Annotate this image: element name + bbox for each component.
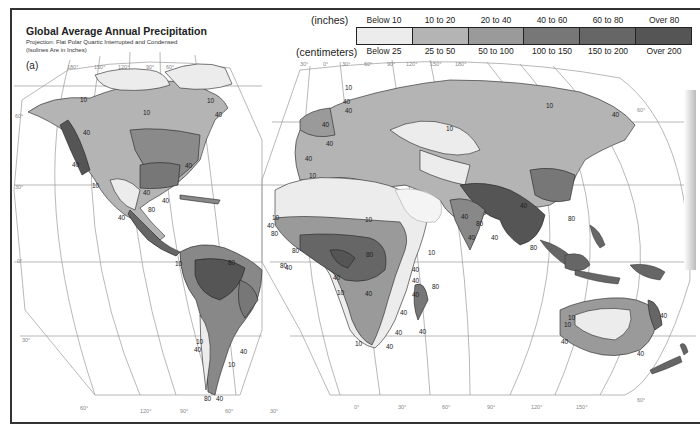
svg-text:0°: 0° (354, 404, 359, 410)
svg-text:80: 80 (476, 220, 484, 227)
svg-text:80: 80 (228, 259, 236, 266)
svg-text:10: 10 (196, 338, 204, 345)
svg-text:90°: 90° (487, 404, 495, 410)
svg-text:40: 40 (83, 129, 91, 136)
svg-text:10: 10 (80, 96, 88, 103)
svg-text:180°: 180° (455, 61, 466, 67)
svg-text:10: 10 (207, 97, 215, 104)
svg-text:10: 10 (92, 182, 100, 189)
svg-text:80: 80 (204, 395, 212, 402)
svg-text:10: 10 (446, 125, 454, 132)
svg-text:10: 10 (428, 249, 436, 256)
svg-text:120°: 120° (140, 408, 151, 414)
svg-text:120°: 120° (406, 61, 417, 67)
australia (560, 298, 662, 356)
svg-text:10: 10 (228, 361, 236, 368)
svg-text:40: 40 (365, 290, 373, 297)
svg-text:150°: 150° (576, 404, 587, 410)
svg-text:80: 80 (432, 283, 440, 290)
svg-text:90°: 90° (146, 64, 154, 70)
svg-text:30°: 30° (22, 337, 30, 343)
new-zealand (650, 344, 688, 374)
svg-text:10: 10 (365, 216, 373, 223)
svg-text:10: 10 (345, 84, 353, 91)
svg-text:10: 10 (309, 172, 317, 179)
svg-text:40: 40 (343, 98, 351, 105)
svg-text:40: 40 (72, 161, 80, 168)
svg-text:40: 40 (412, 266, 420, 273)
svg-text:40: 40 (285, 264, 293, 271)
svg-text:40: 40 (322, 121, 330, 128)
svg-text:180°: 180° (67, 64, 78, 70)
svg-text:60°: 60° (80, 405, 88, 411)
svg-text:10: 10 (546, 102, 554, 109)
svg-text:40: 40 (419, 328, 427, 335)
svg-text:60°: 60° (364, 61, 372, 67)
svg-text:40: 40 (395, 329, 403, 336)
svg-text:10: 10 (568, 314, 576, 321)
svg-text:40: 40 (660, 312, 668, 319)
svg-text:40: 40 (185, 162, 193, 169)
svg-text:30°: 30° (270, 408, 278, 414)
svg-text:10: 10 (143, 109, 151, 116)
svg-text:40: 40 (267, 222, 275, 229)
svg-text:40: 40 (240, 348, 248, 355)
svg-text:10: 10 (564, 321, 572, 328)
svg-text:90°: 90° (180, 408, 188, 414)
svg-text:80: 80 (366, 251, 374, 258)
svg-text:40: 40 (345, 107, 353, 114)
svg-text:40: 40 (561, 338, 569, 345)
svg-text:40: 40 (194, 346, 202, 353)
svg-text:60°: 60° (637, 107, 645, 113)
svg-text:40: 40 (326, 140, 334, 147)
svg-text:80: 80 (271, 230, 279, 237)
svg-text:60°: 60° (225, 408, 233, 414)
svg-text:40: 40 (216, 395, 224, 402)
svg-text:40: 40 (468, 234, 476, 241)
svg-text:30°: 30° (398, 404, 406, 410)
svg-text:80: 80 (292, 247, 300, 254)
svg-text:0°: 0° (323, 61, 328, 67)
svg-text:40: 40 (386, 343, 394, 350)
svg-text:40: 40 (305, 155, 313, 162)
svg-text:40: 40 (118, 214, 126, 221)
southeast-asia (540, 225, 665, 284)
page-edge-shadow (684, 90, 696, 270)
svg-text:40: 40 (412, 277, 420, 284)
svg-text:0°: 0° (17, 258, 22, 264)
svg-text:40: 40 (400, 309, 408, 316)
svg-text:60°: 60° (637, 397, 645, 403)
svg-text:90°: 90° (387, 61, 395, 67)
svg-text:30°: 30° (342, 61, 350, 67)
svg-text:10: 10 (337, 289, 345, 296)
svg-text:40: 40 (612, 111, 620, 118)
svg-text:150°: 150° (430, 61, 441, 67)
svg-text:10: 10 (175, 260, 183, 267)
svg-text:150°: 150° (94, 64, 105, 70)
svg-text:10: 10 (355, 340, 363, 347)
svg-text:40: 40 (637, 350, 645, 357)
svg-text:40: 40 (491, 234, 499, 241)
svg-text:30°: 30° (15, 184, 23, 190)
svg-text:40: 40 (215, 111, 223, 118)
svg-text:10: 10 (272, 214, 280, 221)
svg-text:40: 40 (461, 213, 469, 220)
svg-text:40: 40 (162, 197, 170, 204)
svg-text:80: 80 (148, 206, 156, 213)
svg-text:40: 40 (412, 291, 420, 298)
svg-text:30°: 30° (300, 61, 308, 67)
svg-text:40: 40 (333, 274, 341, 281)
svg-text:60°: 60° (442, 404, 450, 410)
svg-text:120°: 120° (531, 404, 542, 410)
svg-text:80: 80 (530, 244, 538, 251)
svg-text:80: 80 (568, 215, 576, 222)
svg-text:60°: 60° (15, 113, 23, 119)
svg-text:40: 40 (143, 189, 151, 196)
svg-text:40: 40 (520, 202, 528, 209)
